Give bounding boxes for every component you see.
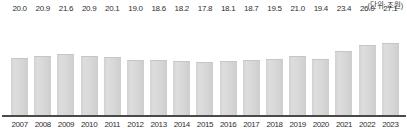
bar: 19.5 <box>266 59 283 116</box>
bar-item: 21.0 <box>286 14 309 115</box>
bar-item: 19.4 <box>309 14 332 115</box>
bar-item: 23.4 <box>332 14 355 115</box>
bar: 21.6 <box>57 54 74 115</box>
x-tick-label-2009: 2009 <box>54 121 77 129</box>
bar-value-label: 19.5 <box>267 5 281 13</box>
bar-value-label: 17.8 <box>198 5 212 13</box>
x-tick-label-2020: 2020 <box>309 121 332 129</box>
bar: 17.8 <box>196 62 213 115</box>
x-tick-label-2015: 2015 <box>193 121 216 129</box>
bar-item: 26.0 <box>356 14 379 115</box>
bar: 23.4 <box>335 51 352 115</box>
bar: 20.1 <box>104 57 121 115</box>
bar-value-label: 18.7 <box>244 5 258 13</box>
bar: 18.2 <box>173 61 190 115</box>
x-tick-label-2008: 2008 <box>31 121 54 129</box>
bar-value-label: 26.0 <box>360 5 374 13</box>
bar-item: 20.9 <box>31 14 54 115</box>
bar: 20.9 <box>34 56 51 115</box>
bar-value-label: 18.2 <box>175 5 189 13</box>
bar-item: 19.0 <box>124 14 147 115</box>
x-tick-label-2021: 2021 <box>332 121 355 129</box>
bar-series: 20.020.921.620.920.119.018.618.217.818.1… <box>8 14 402 115</box>
bar-value-label: 18.1 <box>221 5 235 13</box>
x-tick-label-2016: 2016 <box>217 121 240 129</box>
bar-value-label: 20.9 <box>36 5 50 13</box>
x-tick-label-2018: 2018 <box>263 121 286 129</box>
plot-area: 20.020.921.620.920.119.018.618.217.818.1… <box>8 14 402 115</box>
bar: 21.0 <box>289 56 306 116</box>
bar-chart: (단위: 조원) 20.020.921.620.920.119.018.618.… <box>0 0 407 138</box>
bar: 27.1 <box>382 43 399 115</box>
x-tick-label-2011: 2011 <box>101 121 124 129</box>
bar-value-label: 21.0 <box>290 5 304 13</box>
bar-item: 18.1 <box>217 14 240 115</box>
bar-value-label: 21.6 <box>59 5 73 13</box>
bar-value-label: 20.1 <box>105 5 119 13</box>
bar-value-label: 20.0 <box>12 5 26 13</box>
bar: 20.0 <box>11 58 28 116</box>
x-axis-tick-labels: 2007200820092010201120122013201420152016… <box>8 121 402 129</box>
bar-item: 20.1 <box>101 14 124 115</box>
bar-item: 18.6 <box>147 14 170 115</box>
x-axis-line <box>2 115 406 117</box>
x-tick-label-2019: 2019 <box>286 121 309 129</box>
bar-item: 20.9 <box>78 14 101 115</box>
bar-item: 19.5 <box>263 14 286 115</box>
x-tick-label-2012: 2012 <box>124 121 147 129</box>
x-tick-label-2010: 2010 <box>78 121 101 129</box>
bar-item: 17.8 <box>193 14 216 115</box>
bar-value-label: 27.1 <box>383 5 397 13</box>
bar: 19.4 <box>312 59 329 115</box>
bar-value-label: 19.0 <box>128 5 142 13</box>
bar-item: 27.1 <box>379 14 402 115</box>
bar: 18.1 <box>220 61 237 115</box>
bar: 18.7 <box>243 60 260 115</box>
x-tick-label-2013: 2013 <box>147 121 170 129</box>
x-tick-label-2014: 2014 <box>170 121 193 129</box>
x-tick-label-2007: 2007 <box>8 121 31 129</box>
bar: 20.9 <box>81 56 98 115</box>
x-tick-label-2017: 2017 <box>240 121 263 129</box>
bar-value-label: 23.4 <box>337 5 351 13</box>
x-tick-label-2022: 2022 <box>356 121 379 129</box>
bar: 19.0 <box>127 60 144 116</box>
bar-item: 18.7 <box>240 14 263 115</box>
bar: 26.0 <box>359 45 376 115</box>
bar-value-label: 20.9 <box>82 5 96 13</box>
bar-item: 21.6 <box>54 14 77 115</box>
bar-value-label: 18.6 <box>151 5 165 13</box>
bar-item: 20.0 <box>8 14 31 115</box>
bar: 18.6 <box>150 60 167 115</box>
x-tick-label-2023: 2023 <box>379 121 402 129</box>
bar-item: 18.2 <box>170 14 193 115</box>
bar-value-label: 19.4 <box>314 5 328 13</box>
